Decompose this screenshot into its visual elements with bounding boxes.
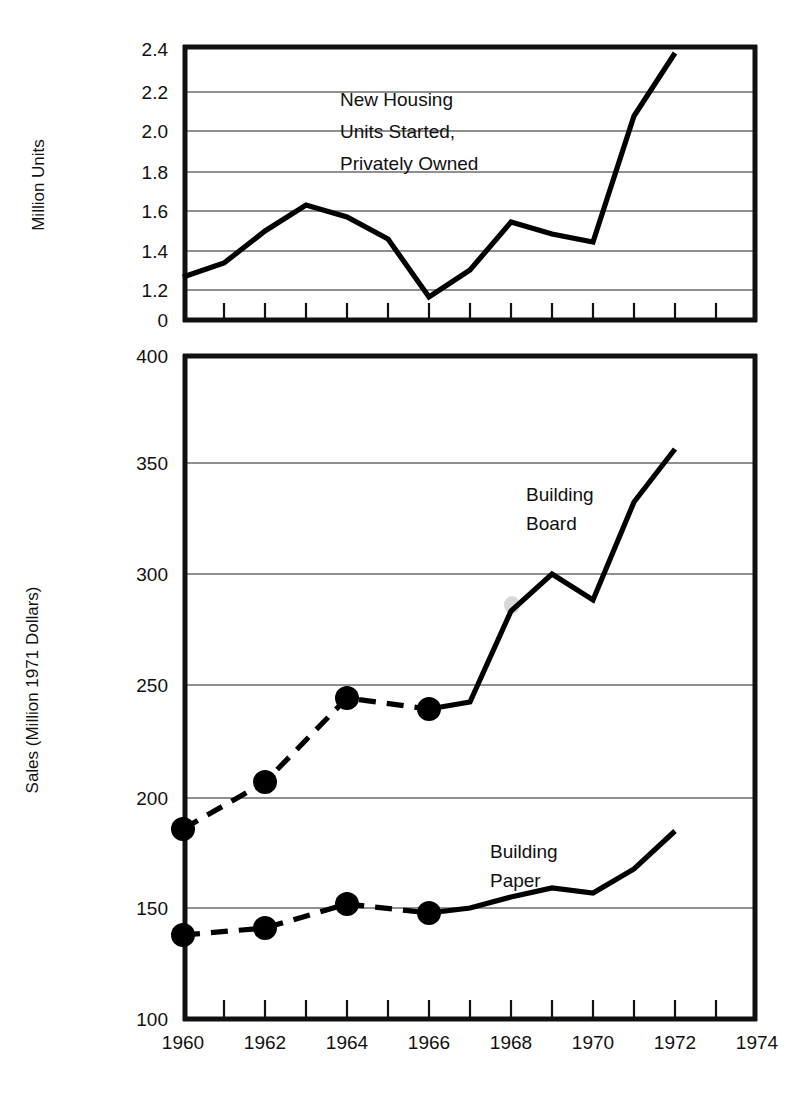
top-panel-frame <box>183 45 757 322</box>
x-tick-1962: 1962 <box>244 1032 286 1053</box>
top-panel-series-label-line3: Privately Owned <box>340 153 478 174</box>
top-panel-x-tickmarks <box>224 303 716 320</box>
x-tick-1966: 1966 <box>408 1032 450 1053</box>
bottom-panel-x-tickmarks <box>224 1000 716 1019</box>
data-point-marker <box>335 686 359 710</box>
bottom-panel-building-board-markers <box>171 686 441 841</box>
top-y-tick-1.4: 1.4 <box>142 241 169 262</box>
top-panel-gridlines <box>183 92 757 290</box>
bottom-panel-label-building-board-line2: Board <box>526 513 577 534</box>
x-tick-1960: 1960 <box>162 1032 204 1053</box>
top-panel-series-label-line2: Units Started, <box>340 121 455 142</box>
data-point-marker <box>253 916 277 940</box>
top-panel-series-label-line1: New Housing <box>340 89 453 110</box>
two-panel-line-chart-figure: Million Units 2.4 2.2 2.0 1.8 1.6 1.4 1.… <box>0 0 812 1096</box>
top-y-tick-1.2: 1.2 <box>142 280 168 301</box>
x-tick-1972: 1972 <box>654 1032 696 1053</box>
bottom-y-tick-250: 250 <box>136 675 168 696</box>
bottom-y-tick-200: 200 <box>136 788 168 809</box>
bottom-y-tick-300: 300 <box>136 564 168 585</box>
data-point-marker <box>417 697 441 721</box>
bottom-panel-building-paper-markers <box>171 892 441 947</box>
bottom-y-tick-400: 400 <box>136 346 168 367</box>
data-point-marker <box>335 892 359 916</box>
x-tick-1964: 1964 <box>326 1032 369 1053</box>
top-panel-y-axis-title: Million Units <box>29 139 48 231</box>
top-y-tick-1.6: 1.6 <box>142 201 168 222</box>
bottom-panel-y-axis-title: Sales (Million 1971 Dollars) <box>23 587 42 794</box>
top-y-tick-0: 0 <box>157 310 168 331</box>
top-y-tick-2.2: 2.2 <box>142 82 168 103</box>
top-y-tick-2.4: 2.4 <box>142 39 169 60</box>
bottom-panel-chart: Sales (Million 1971 Dollars) 400 350 300… <box>0 340 812 1096</box>
top-y-tick-2.0: 2.0 <box>142 121 168 142</box>
data-point-marker <box>171 817 195 841</box>
bottom-y-tick-150: 150 <box>136 898 168 919</box>
top-panel-chart: Million Units 2.4 2.2 2.0 1.8 1.6 1.4 1.… <box>0 0 812 340</box>
bottom-panel-series-building-paper-historical <box>183 904 429 935</box>
x-tick-1974: 1974 <box>736 1032 779 1053</box>
x-tick-1970: 1970 <box>572 1032 614 1053</box>
data-point-marker <box>417 901 441 925</box>
data-point-marker <box>253 770 277 794</box>
bottom-y-tick-350: 350 <box>136 453 168 474</box>
bottom-panel-series-building-board-historical <box>183 698 429 829</box>
data-point-marker <box>171 923 195 947</box>
bottom-panel-label-building-paper-line1: Building <box>490 841 558 862</box>
bottom-panel-gridlines <box>183 463 757 908</box>
top-y-tick-1.8: 1.8 <box>142 162 168 183</box>
bottom-panel-label-building-board-line1: Building <box>526 484 594 505</box>
bottom-y-tick-100: 100 <box>136 1009 168 1030</box>
x-tick-1968: 1968 <box>490 1032 532 1053</box>
bottom-panel-label-building-paper-line2: Paper <box>490 870 541 891</box>
